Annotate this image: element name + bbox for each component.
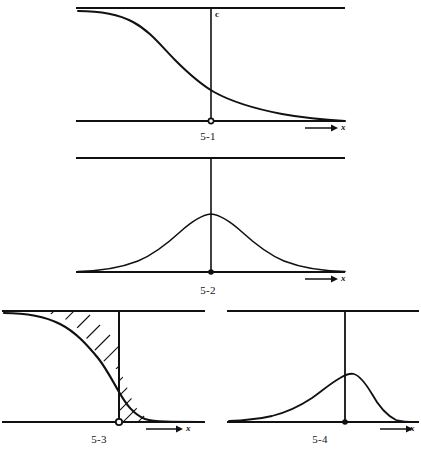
panel-5-1-amplitude-label: c [215,9,219,19]
panel-5-1-x-axis-label: x [341,122,346,132]
panel-5-1 [76,8,345,132]
panel-5-4-origin-marker [342,419,348,425]
panel-5-2-caption: 5-2 [200,284,215,296]
figure-plate: c x x x x 5-1 5-2 5-3 5-4 [0,0,421,455]
panel-5-4-x-axis-label: x [410,423,415,433]
panel-5-3-x-axis-label: x [186,423,191,433]
panel-5-3-caption: 5-3 [91,433,106,445]
panel-5-2-x-arrow-head [331,276,338,283]
panel-5-1-x-arrow-head [331,125,338,132]
panel-5-1-origin-marker [208,118,213,123]
panel-5-3-hatch-lower [75,320,170,450]
panel-5-4 [227,311,419,433]
panel-5-1-caption: 5-1 [200,130,215,142]
panel-5-2-x-axis-label: x [341,273,346,283]
panel-5-2 [76,158,345,283]
panel-5-3-hatch-upper [0,285,150,435]
panel-5-4-skewed-bell-curve [229,374,417,422]
panel-5-4-caption: 5-4 [312,433,327,445]
panel-5-2-origin-marker [208,269,214,275]
panel-5-3-x-arrow-head [176,426,183,433]
panel-5-3-origin-marker [116,419,122,425]
panel-5-3-sigmoid-curve [4,313,200,422]
panel-5-3 [0,285,205,450]
figure-canvas [0,0,421,455]
